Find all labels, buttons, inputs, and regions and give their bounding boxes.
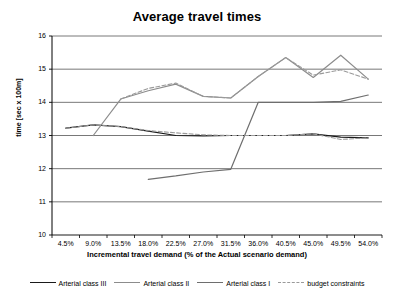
y-tick-label: 14 [24,98,46,106]
y-tick-label: 13 [24,132,46,140]
legend-line-icon [197,279,223,287]
series-line [66,125,369,140]
y-tick-label: 15 [24,65,46,73]
legend-item[interactable]: Arterial class II [114,279,189,287]
y-tick-label: 12 [24,165,46,173]
y-tick-label: 10 [24,231,46,239]
series-line [93,55,368,135]
y-tick-label: 16 [24,32,46,40]
legend-label: budget constraints [307,280,364,287]
y-axis-title: time [sec x 100m] [15,48,22,168]
chart-legend: Arterial class IIIArterial class IIArter… [0,276,394,290]
legend-item[interactable]: budget constraints [278,279,364,287]
legend-line-icon [30,279,56,287]
x-axis-title: Incremental travel demand (% of the Actu… [0,250,394,259]
legend-label: Arterial class I [226,280,270,287]
x-tick-label: 54.0% [351,240,385,248]
legend-label: Arterial class III [59,280,107,287]
legend-label: Arterial class II [143,280,189,287]
series-line [148,95,368,179]
legend-line-icon [278,279,304,287]
legend-item[interactable]: Arterial class III [30,279,107,287]
chart-container: Average travel times time [sec x 100m] 1… [0,0,394,301]
y-tick-label: 11 [24,198,46,206]
legend-line-icon [114,279,140,287]
legend-item[interactable]: Arterial class I [197,279,270,287]
